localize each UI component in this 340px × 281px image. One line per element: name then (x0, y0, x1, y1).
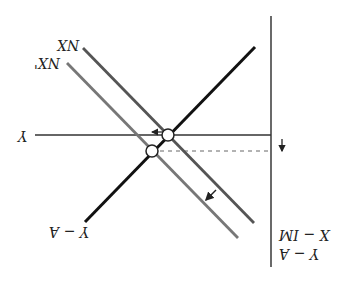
axis-label-top: X − IM (279, 228, 329, 242)
horizontal-line-label: Y (18, 129, 27, 143)
equilibrium-point-new (146, 145, 158, 157)
axis-label-bottom: Y − A (279, 247, 319, 261)
shift-arrow-nx (206, 190, 216, 200)
nx-prime-curve-label: NX' (34, 56, 60, 70)
equilibrium-point-initial (162, 129, 174, 141)
thick-line-label: Y − A (49, 225, 89, 239)
diagram-canvas: NX NX' Y Y − A X − IM Y − A (0, 0, 340, 281)
nx-curve-label: NX (57, 38, 79, 52)
